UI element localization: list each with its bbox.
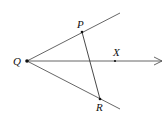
label-p: P xyxy=(76,18,84,30)
geometry-diagram: Q P R X xyxy=(0,0,168,117)
point-p xyxy=(81,31,84,34)
label-r: R xyxy=(95,101,103,113)
point-x xyxy=(114,60,116,62)
label-x: X xyxy=(112,46,121,58)
label-q: Q xyxy=(13,55,21,67)
point-r xyxy=(99,98,102,101)
ray-qr xyxy=(27,61,120,109)
point-q xyxy=(25,59,29,63)
segment-pr xyxy=(82,32,100,99)
ray-qp xyxy=(27,13,120,61)
